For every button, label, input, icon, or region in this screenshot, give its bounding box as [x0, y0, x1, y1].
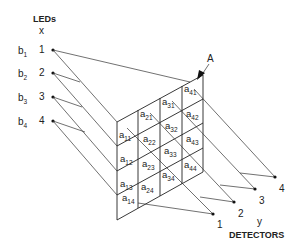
svg-text:b4: b4 — [18, 116, 28, 129]
detector-1-dot — [211, 212, 214, 215]
led-number: 3 — [39, 91, 45, 102]
led-number: 4 — [39, 115, 45, 126]
detector-1-label: 1 — [217, 219, 223, 230]
cell-a13: a13 — [120, 178, 133, 191]
led-row-2: b2 2 — [18, 67, 45, 81]
detectors-title: DETECTORS — [229, 230, 284, 240]
led-number: 1 — [39, 44, 45, 55]
detector-4-label: 4 — [279, 183, 285, 194]
detector-4-dot — [273, 175, 276, 178]
cell-a12: a12 — [120, 153, 133, 166]
detector-3-dot — [253, 187, 256, 190]
led-detector-array-diagram: LEDs x b1 1 b2 2 b3 3 b4 4 — [0, 0, 306, 248]
cell-a41: a41 — [184, 83, 197, 96]
svg-text:b3: b3 — [18, 92, 28, 105]
array-cells: a11 a12 a13 a14 a21 a22 a23 a24 a31 a32 … — [119, 83, 199, 205]
array-label: A — [207, 53, 214, 64]
cell-a43: a43 — [186, 133, 199, 146]
cell-a23: a23 — [142, 158, 155, 171]
cell-a33: a33 — [164, 145, 177, 158]
detector-3-label: 3 — [259, 195, 265, 206]
cell-a14: a14 — [122, 192, 135, 205]
svg-text:b2: b2 — [18, 68, 28, 81]
svg-text:b1: b1 — [18, 45, 28, 58]
detectors-axis-label: y — [257, 216, 262, 227]
leds-title: LEDs — [33, 14, 56, 24]
led-row-1: b1 1 — [18, 44, 45, 58]
led-number: 2 — [39, 67, 45, 78]
led-row-4: b4 4 — [18, 115, 45, 129]
leds-axis-label: x — [39, 25, 44, 36]
cell-a34: a34 — [162, 169, 175, 182]
detector-light-paths — [127, 89, 275, 214]
led-row-3: b3 3 — [18, 91, 45, 105]
detector-2-dot — [232, 200, 235, 203]
cell-a42: a42 — [186, 108, 199, 121]
detector-2-label: 2 — [238, 208, 244, 219]
cell-a22: a22 — [143, 133, 156, 146]
cell-a24: a24 — [141, 181, 154, 194]
